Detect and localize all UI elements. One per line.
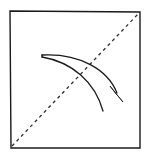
square-sheet [10, 11, 140, 148]
fold-diagram-canvas [0, 0, 149, 159]
origami-fold-diagram: Origami fold step diagram Square sheet o… [0, 0, 149, 159]
